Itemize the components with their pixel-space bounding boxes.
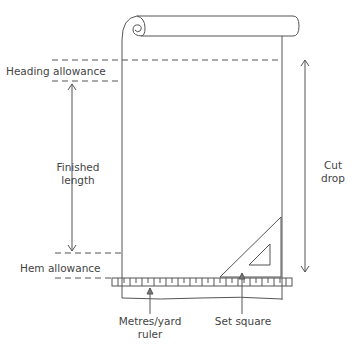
heading-allowance-label: Heading allowance (6, 65, 106, 78)
hem-allowance-label: Hem allowance (20, 262, 101, 275)
finished-length-label-line2: length (46, 174, 110, 187)
ruler-label: Metres/yard ruler (112, 315, 188, 341)
set-square-label: Set square (210, 315, 276, 328)
set-square-icon (220, 217, 281, 277)
finished-length-label: Finished length (46, 161, 110, 187)
cut-drop-label: Cut drop (316, 159, 350, 185)
cut-drop-arrow-icon (301, 60, 309, 272)
finished-length-label-line1: Finished (46, 161, 110, 174)
fabric-roll-icon (122, 16, 299, 40)
curtain-fabric (122, 36, 282, 300)
cut-drop-label-line2: drop (316, 172, 350, 185)
ruler-icon (112, 278, 292, 286)
set-square-pointer-arrow-icon (239, 273, 245, 314)
ruler-pointer-arrow-icon (147, 288, 153, 314)
cut-drop-label-line1: Cut (316, 159, 350, 172)
ruler-label-line2: ruler (112, 328, 188, 341)
ruler-label-line1: Metres/yard (112, 315, 188, 328)
